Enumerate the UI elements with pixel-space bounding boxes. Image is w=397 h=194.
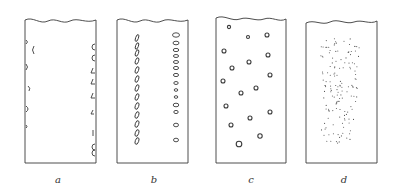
- panel-label-c: c: [241, 174, 261, 185]
- panel-d: [306, 21, 377, 163]
- panel-a: [25, 19, 96, 163]
- panel-label-d: d: [334, 174, 354, 185]
- bubble-diagram: [0, 0, 397, 194]
- panel-c: [216, 17, 286, 163]
- panel-label-b: b: [144, 174, 164, 185]
- panel-b: [117, 19, 188, 163]
- panel-label-a: a: [48, 174, 68, 185]
